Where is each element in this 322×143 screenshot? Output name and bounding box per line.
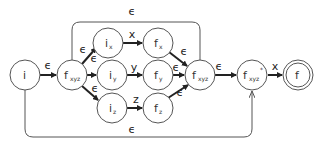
svg-text:y: y — [159, 75, 163, 83]
state-fxyz-right: f xyz — [185, 60, 215, 90]
svg-text:z: z — [159, 108, 162, 115]
svg-text:i: i — [105, 37, 108, 50]
edge-label-i-fxyz1: ϵ — [45, 59, 52, 72]
edge-label-iy-fy: y — [131, 61, 138, 74]
svg-text:z: z — [113, 108, 116, 115]
state-i: i — [10, 60, 40, 90]
svg-text:*: * — [260, 66, 263, 73]
state-iy: i y — [97, 60, 127, 90]
edge-label-ix-fx: x — [129, 28, 136, 41]
edge-label-fxyz2-fxyzstar: ϵ — [216, 60, 223, 73]
state-fxyz-star: f xyz * — [237, 60, 267, 90]
svg-text:xyz: xyz — [198, 75, 208, 83]
state-fz: f z — [143, 93, 173, 123]
edge-label-fxyzstar-f: x — [272, 60, 279, 73]
svg-text:y: y — [113, 75, 117, 83]
svg-text:i: i — [109, 69, 112, 82]
state-ix: i x — [93, 28, 123, 58]
edge-label-fx-fxyz2: ϵ — [181, 45, 188, 58]
svg-text:xyz: xyz — [70, 75, 80, 83]
state-f-accepting: f — [283, 60, 313, 90]
svg-text:i: i — [109, 102, 112, 115]
nfa-diagram: ϵ ϵ ϵ ϵ ϵ ϵ x y z ϵ ϵ ϵ ϵ x i f xyz i x … — [0, 0, 322, 143]
state-fy: f y — [143, 60, 173, 90]
edge-label-iz-fz: z — [133, 93, 139, 106]
state-iz: i z — [97, 93, 127, 123]
svg-text:x: x — [159, 43, 163, 50]
svg-text:i: i — [23, 69, 26, 82]
edge-label-top-loop: ϵ — [129, 5, 136, 18]
edge-label-fxyz1-ix-a: ϵ — [80, 43, 87, 56]
edge-label-fy-fxyz2: ϵ — [173, 61, 180, 74]
state-fxyz-left: f xyz — [57, 60, 87, 90]
edge-label-bottom-loop: ϵ — [129, 123, 136, 136]
svg-text:x: x — [109, 43, 113, 50]
edge-label-fxyz1-ix-b: ϵ — [91, 52, 98, 65]
state-fx: f x — [143, 28, 173, 58]
edge-label-fz-fxyz2: ϵ — [177, 86, 184, 99]
svg-text:xyz: xyz — [249, 75, 259, 83]
edge-label-fxyz1-iz: ϵ — [92, 82, 99, 95]
